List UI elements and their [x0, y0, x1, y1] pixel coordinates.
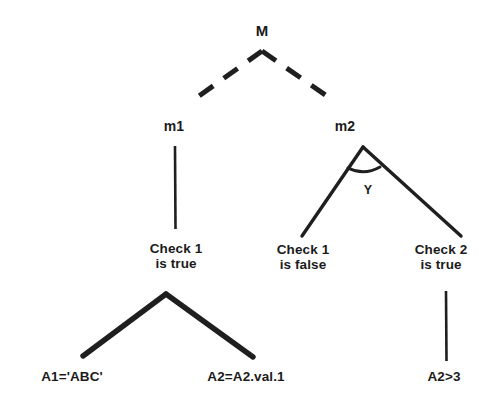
- leaf-a2-equals-a2-val-1: A2=A2.val.1: [207, 369, 284, 384]
- node-check2-is-true: Check 2 is true: [415, 242, 467, 272]
- leaf-a2-greater-than-3: A2>3: [427, 369, 460, 384]
- edge-m1-to-check1-true: [175, 146, 176, 229]
- edge-check2-true-to-a2gt3: [446, 291, 447, 361]
- node-root-m: M: [256, 23, 269, 40]
- tree-edges-svg: [0, 0, 501, 404]
- edge-check1-true-to-a2val: [166, 294, 253, 357]
- edge-label-y: Y: [364, 183, 372, 197]
- node-check1-is-true: Check 1 is true: [150, 241, 202, 271]
- tree-diagram: M m1 m2 Y Check 1 is true Check 1 is fal…: [0, 0, 501, 404]
- node-m1: m1: [164, 119, 184, 135]
- edge-m2-to-check1-false: [302, 147, 363, 236]
- edge-arc-marker-m2: [348, 167, 380, 172]
- edge-root-to-m2: [262, 51, 334, 101]
- edge-m2-to-check2-true: [363, 147, 461, 236]
- leaf-a1-equals-abc: A1='ABC': [41, 369, 103, 384]
- node-check1-is-false: Check 1 is false: [277, 242, 329, 272]
- edge-root-to-m1: [192, 51, 262, 101]
- node-m2: m2: [335, 119, 355, 135]
- edge-check1-true-to-a1: [83, 294, 166, 356]
